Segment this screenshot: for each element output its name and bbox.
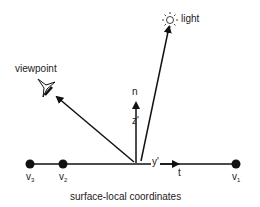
- vertex-v3: [26, 160, 35, 169]
- vertex-v2: [59, 160, 68, 169]
- light-direction-arrow: [141, 27, 169, 161]
- vertex-label-v3: v3: [26, 171, 34, 183]
- z-axis-label: z': [132, 115, 139, 126]
- vertex-label-v1: v1: [232, 171, 240, 183]
- viewpoint-label: viewpoint: [15, 63, 57, 74]
- light-label: light: [181, 13, 199, 24]
- sun-icon: [162, 12, 178, 28]
- view-direction-arrow: [57, 97, 134, 162]
- vertex-label-v2: v2: [59, 171, 67, 183]
- y-axis-label: y': [151, 156, 160, 167]
- vertex-v1: [232, 160, 241, 169]
- tangent-label: t: [178, 167, 181, 178]
- diagram-canvas: [0, 0, 260, 207]
- eye-icon: [38, 79, 55, 97]
- normal-label: n: [132, 86, 138, 97]
- diagram-caption: surface-local coordinates: [70, 191, 181, 202]
